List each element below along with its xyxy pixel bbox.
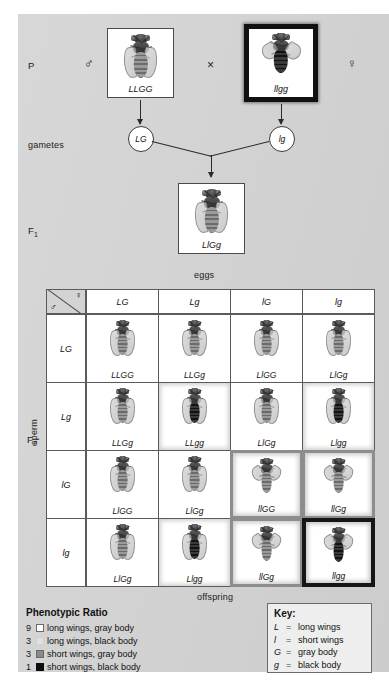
f1-generation-label: F1 [28,225,38,238]
punnett-cell-genotype: LLGg [159,370,230,380]
ratio-count: 3 [26,636,36,646]
key-symbol: G [274,647,286,657]
corner-male-symbol: ♂ [50,302,57,312]
female-symbol: ♀ [347,57,357,70]
punnett-cell-genotype: LlGg [231,438,302,448]
punnett-row-header-2: lG [46,450,86,519]
fly-long-gray [108,455,138,497]
fly-long-gray [108,387,138,429]
key-box: Key: L=long wingsl=short wingsG=gray bod… [267,603,372,673]
punnett-cell-0-0[interactable]: LLGG [86,314,159,383]
ratio-swatch-long-black-icon [36,637,44,645]
phenotypic-ratio-row-1: 3long wings, black body [26,634,216,647]
key-row-1: l=short wings [274,634,365,647]
fly-long-gray [108,523,138,565]
fly-long-black [324,387,354,429]
punnett-cell-genotype: llGg [233,572,300,582]
punnett-cell-genotype: LLgg [159,438,230,448]
punnett-cell-1-3[interactable]: Llgg [302,382,375,451]
ratio-label: long wings, gray body [47,623,134,633]
ratio-swatch-long-gray-icon [36,624,44,632]
gamete-male: LG [128,126,154,152]
punnett-col-header-3: lg [302,289,375,314]
punnett-cell-1-2[interactable]: LlGg [230,382,303,451]
punnett-row-header-0: LG [46,314,86,383]
punnett-cell-3-3[interactable]: llgg [302,518,375,587]
f1-genotype: LlGg [179,240,244,250]
punnett-col-header-0: LG [86,289,159,314]
gamete-female: lg [269,126,295,152]
fly-short-black [324,526,354,568]
fly-short-gray [252,457,282,499]
parent-female-box: llgg [244,24,318,102]
fly-long-gray [252,319,282,361]
parent-female-genotype: llgg [249,84,313,94]
punnett-cell-1-0[interactable]: LLGg [86,382,159,451]
punnett-cell-0-2[interactable]: LlGG [230,314,303,383]
phenotypic-ratio-row-2: 3short wings, gray body [26,647,216,660]
fly-long-black [180,523,210,565]
phenotypic-ratio-row-3: 1short wings, black body [26,660,216,673]
cross-symbol: × [207,58,214,72]
punnett-cell-genotype: Llgg [159,574,230,584]
punnett-cell-genotype: Llgg [303,438,374,448]
phenotypic-ratio-legend: Phenotypic Ratio 9long wings, gray body3… [26,607,216,673]
punnett-row-header-1: Lg [46,382,86,451]
ratio-count: 1 [26,662,36,672]
corner-female-symbol: ♀ [75,290,82,300]
male-symbol: ♂ [84,57,94,70]
key-equals: = [286,647,298,657]
punnett-cell-genotype: LLGg [87,438,158,448]
ratio-count: 9 [26,623,36,633]
fly-long-black [180,387,210,429]
key-row-3: g=black body [274,659,365,672]
fly-llgg [121,33,161,85]
fly-long-gray [252,387,282,429]
punnett-cell-3-2[interactable]: llGg [230,518,303,587]
p-generation-label: P [28,60,35,71]
punnett-cell-3-1[interactable]: Llgg [158,518,231,587]
punnett-cell-2-3[interactable]: llGg [302,450,375,519]
punnett-cell-genotype: LlGg [87,574,158,584]
punnett-cell-genotype: LlGG [87,506,158,516]
key-meaning: black body [298,660,341,670]
fly-llgg-f1 [192,188,232,240]
key-rows: L=long wingsl=short wingsG=gray bodyg=bl… [274,621,365,671]
punnett-cell-genotype: LlGg [159,506,230,516]
fly-long-gray [180,455,210,497]
ratio-label: short wings, black body [47,662,141,672]
punnett-cell-2-1[interactable]: LlGg [158,450,231,519]
punnett-cell-genotype: llgg [306,571,371,581]
punnett-cell-genotype: llGG [233,504,300,514]
key-symbol: L [274,622,286,632]
phenotypic-ratio-row-0: 9long wings, gray body [26,621,216,634]
key-equals: = [286,635,298,645]
eggs-label: eggs [194,270,214,280]
key-equals: = [286,660,298,670]
punnett-cell-genotype: LLGG [87,370,158,380]
punnett-cell-genotype: LlGG [231,370,302,380]
punnett-cell-1-1[interactable]: LLgg [158,382,231,451]
fly-long-gray [180,319,210,361]
punnett-cell-2-0[interactable]: LlGG [86,450,159,519]
punnett-cell-0-3[interactable]: LlGg [302,314,375,383]
genetics-figure: P ♂ LLGG × llgg ♀ gametes LG l [0,0,389,688]
phenotypic-ratio-rows: 9long wings, gray body3long wings, black… [26,621,216,673]
key-meaning: long wings [298,622,341,632]
key-equals: = [286,622,298,632]
key-symbol: g [274,660,286,670]
sperm-label: sperm [29,419,39,445]
punnett-cell-0-1[interactable]: LLGg [158,314,231,383]
fly-llgg-female [261,32,301,80]
punnett-square: ♀ ♂ LG Lg lG lg LG Lg lG lg LLGGLLGgLlGG… [46,289,375,586]
offspring-label: offspring [197,592,233,602]
parent-male-genotype: LLGG [108,84,173,94]
ratio-swatch-short-black-icon [36,663,44,671]
f1-box: LlGg [178,183,245,254]
parent-male-box: LLGG [107,28,174,98]
punnett-cell-3-0[interactable]: LlGg [86,518,159,587]
punnett-cell-2-2[interactable]: llGG [230,450,303,519]
gametes-label: gametes [28,140,64,150]
phenotypic-ratio-title: Phenotypic Ratio [26,607,216,618]
arrow-male-to-gamete [140,100,141,124]
